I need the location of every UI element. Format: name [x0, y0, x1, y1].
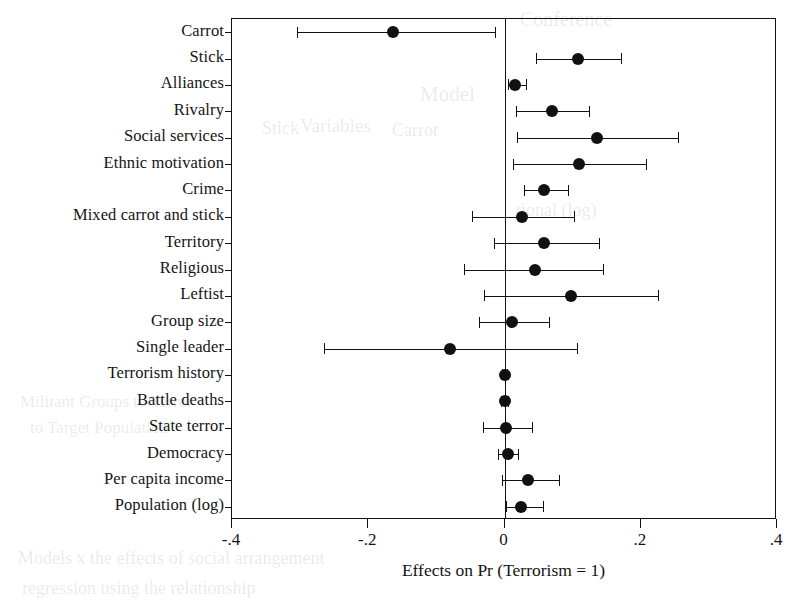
point-estimate-marker: [499, 395, 511, 407]
point-estimate-marker: [522, 474, 534, 486]
confidence-interval-cap-low: [536, 53, 537, 64]
category-label: Crime: [0, 181, 224, 198]
y-axis-tick: [225, 349, 232, 350]
confidence-interval-cap-low: [502, 475, 503, 486]
x-axis-tick: [776, 519, 777, 528]
y-axis-tick: [225, 243, 232, 244]
point-estimate-marker: [506, 316, 518, 328]
category-label: Ethnic motivation: [0, 155, 224, 172]
point-estimate-marker: [572, 53, 584, 65]
point-estimate-marker: [515, 501, 527, 513]
confidence-interval-cap-low: [472, 211, 473, 222]
x-axis-tick-label: 0: [499, 531, 508, 548]
x-axis-tick-label: .4: [770, 531, 783, 548]
confidence-interval-cap-low: [464, 264, 465, 275]
point-estimate-marker: [502, 448, 514, 460]
category-label: Group size: [0, 313, 224, 330]
y-axis-tick: [225, 401, 232, 402]
y-axis-tick: [225, 375, 232, 376]
point-estimate-marker: [573, 158, 585, 170]
confidence-interval-cap-high: [599, 238, 600, 249]
point-estimate-marker: [591, 132, 603, 144]
confidence-interval-cap-high: [526, 79, 527, 90]
point-estimate-marker: [444, 343, 456, 355]
x-axis-title: Effects on Pr (Terrorism = 1): [231, 562, 776, 580]
x-axis-tick-label: -.2: [358, 531, 376, 548]
bleed-through-text: regression using the relationship: [22, 578, 255, 599]
confidence-interval-cap-low: [484, 290, 485, 301]
point-estimate-marker: [565, 290, 577, 302]
point-estimate-marker: [499, 369, 511, 381]
confidence-interval-cap-high: [568, 185, 569, 196]
zero-reference-line: [505, 19, 506, 518]
confidence-interval-cap-low: [524, 185, 525, 196]
category-label: Battle deaths: [0, 392, 224, 409]
y-axis-tick: [225, 217, 232, 218]
category-label: Territory: [0, 234, 224, 251]
confidence-interval-cap-low: [324, 343, 325, 354]
category-label: Mixed carrot and stick: [0, 207, 224, 224]
coefficient-plot-figure: ConferenceModelVariablesStickCarrottiona…: [0, 0, 800, 605]
confidence-interval-cap-high: [603, 264, 604, 275]
confidence-interval-cap-low: [297, 27, 298, 38]
category-label: Social services: [0, 128, 224, 145]
confidence-interval-cap-high: [495, 27, 496, 38]
category-label: Religious: [0, 260, 224, 277]
x-axis-tick: [231, 519, 232, 528]
x-axis-tick: [640, 519, 641, 528]
point-estimate-marker: [538, 237, 550, 249]
confidence-interval-cap-low: [517, 132, 518, 143]
confidence-interval-cap-high: [577, 343, 578, 354]
confidence-interval-cap-high: [658, 290, 659, 301]
confidence-interval-cap-high: [559, 475, 560, 486]
y-axis-tick: [225, 270, 232, 271]
category-label: Rivalry: [0, 102, 224, 119]
x-axis-tick-label: -.4: [222, 531, 240, 548]
confidence-interval-cap-high: [574, 211, 575, 222]
category-label: Leftist: [0, 286, 224, 303]
confidence-interval-cap-low: [494, 238, 495, 249]
x-axis-tick: [367, 519, 368, 528]
category-label: Per capita income: [0, 471, 224, 488]
confidence-interval-cap-low: [483, 422, 484, 433]
point-estimate-marker: [529, 264, 541, 276]
point-estimate-marker: [509, 79, 521, 91]
confidence-interval-cap-low: [498, 449, 499, 460]
x-axis: -.4-.20.2.4: [231, 519, 776, 520]
y-axis-tick: [225, 480, 232, 481]
confidence-interval-cap-low: [506, 501, 507, 512]
category-label: Population (log): [0, 497, 224, 514]
confidence-interval-cap-high: [646, 159, 647, 170]
confidence-interval-cap-high: [621, 53, 622, 64]
y-axis-tick: [225, 296, 232, 297]
confidence-interval-cap-high: [532, 422, 533, 433]
y-axis-tick: [225, 138, 232, 139]
category-axis-labels: CarrotStickAlliancesRivalrySocial servic…: [0, 18, 224, 519]
confidence-interval-cap-high: [543, 501, 544, 512]
y-axis-tick: [225, 32, 232, 33]
y-axis-tick: [225, 111, 232, 112]
x-axis-tick: [504, 519, 505, 528]
confidence-interval-cap-high: [589, 106, 590, 117]
category-label: State terror: [0, 418, 224, 435]
confidence-interval-cap-low: [516, 106, 517, 117]
plot-area: [231, 18, 776, 519]
point-estimate-marker: [538, 184, 550, 196]
confidence-interval-cap-low: [479, 317, 480, 328]
point-estimate-marker: [516, 211, 528, 223]
point-estimate-marker: [387, 26, 399, 38]
category-label: Democracy: [0, 445, 224, 462]
category-label: Terrorism history: [0, 365, 224, 382]
confidence-interval-cap-high: [549, 317, 550, 328]
y-axis-tick: [225, 85, 232, 86]
confidence-interval-cap-low: [513, 159, 514, 170]
y-axis-tick: [225, 59, 232, 60]
confidence-interval-cap-high: [678, 132, 679, 143]
y-axis-tick: [225, 428, 232, 429]
category-label: Alliances: [0, 75, 224, 92]
y-axis-tick: [225, 454, 232, 455]
y-axis-tick: [225, 190, 232, 191]
y-axis-tick: [225, 322, 232, 323]
y-axis-tick: [225, 507, 232, 508]
point-estimate-marker: [500, 422, 512, 434]
